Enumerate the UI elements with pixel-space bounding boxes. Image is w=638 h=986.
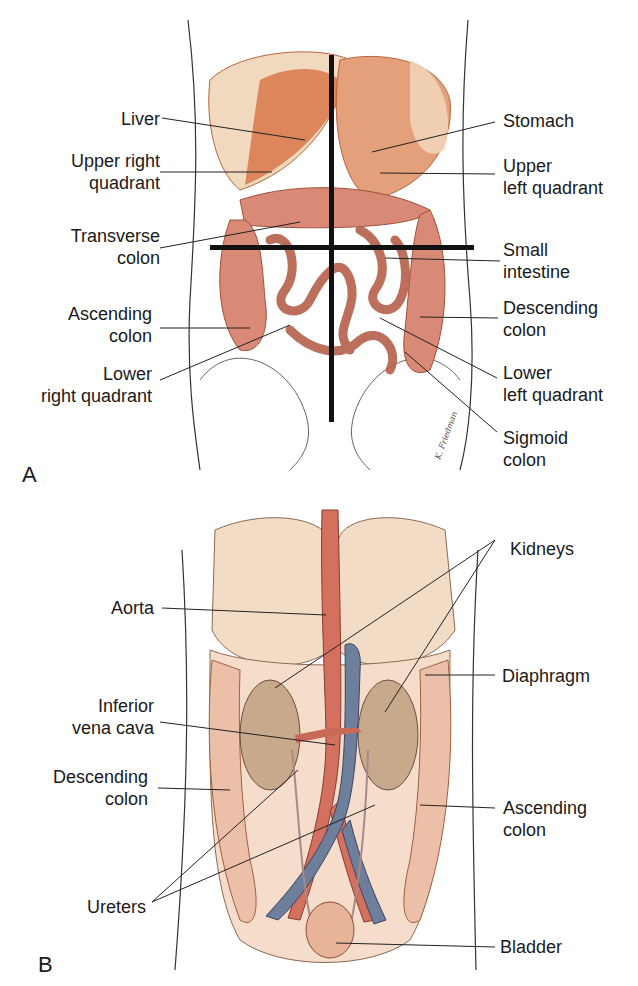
label-liver: Liver xyxy=(121,108,160,130)
label-ascending-colon-b: Ascendingcolon xyxy=(503,797,587,841)
label-lower-right-quadrant: Lowerright quadrant xyxy=(41,363,152,407)
label-ureters: Ureters xyxy=(87,896,146,918)
label-sigmoid-colon: Sigmoidcolon xyxy=(503,427,568,471)
label-upper-right-quadrant: Upper rightquadrant xyxy=(71,150,160,194)
label-small-intestine: Smallintestine xyxy=(503,239,570,283)
panel-letter-a: A xyxy=(22,462,37,488)
label-stomach: Stomach xyxy=(503,110,574,132)
panel-a-abdominal-quadrants: K. Friedman Liver Upper rightquadrant Tr… xyxy=(0,0,638,500)
label-kidneys: Kidneys xyxy=(510,538,574,560)
label-ascending-colon: Ascendingcolon xyxy=(68,303,152,347)
svg-text:K. Friedman: K. Friedman xyxy=(433,410,459,461)
label-aorta: Aorta xyxy=(111,597,154,619)
label-lower-left-quadrant: Lowerleft quadrant xyxy=(503,362,603,406)
panel-b-retroperitoneal-organs: Aorta Inferiorvena cava Descendingcolon … xyxy=(0,500,638,986)
label-descending-colon-b: Descendingcolon xyxy=(53,766,148,810)
panel-letter-b: B xyxy=(38,952,53,978)
label-transverse-colon: Transversecolon xyxy=(71,225,160,269)
horizontal-quadrant-line xyxy=(210,245,474,250)
vertical-quadrant-line xyxy=(329,55,334,422)
label-upper-left-quadrant: Upperleft quadrant xyxy=(503,155,603,199)
label-descending-colon-a: Descendingcolon xyxy=(503,297,598,341)
label-diaphragm: Diaphragm xyxy=(502,665,590,687)
label-bladder: Bladder xyxy=(500,936,562,958)
label-inferior-vena-cava: Inferiorvena cava xyxy=(72,695,154,739)
